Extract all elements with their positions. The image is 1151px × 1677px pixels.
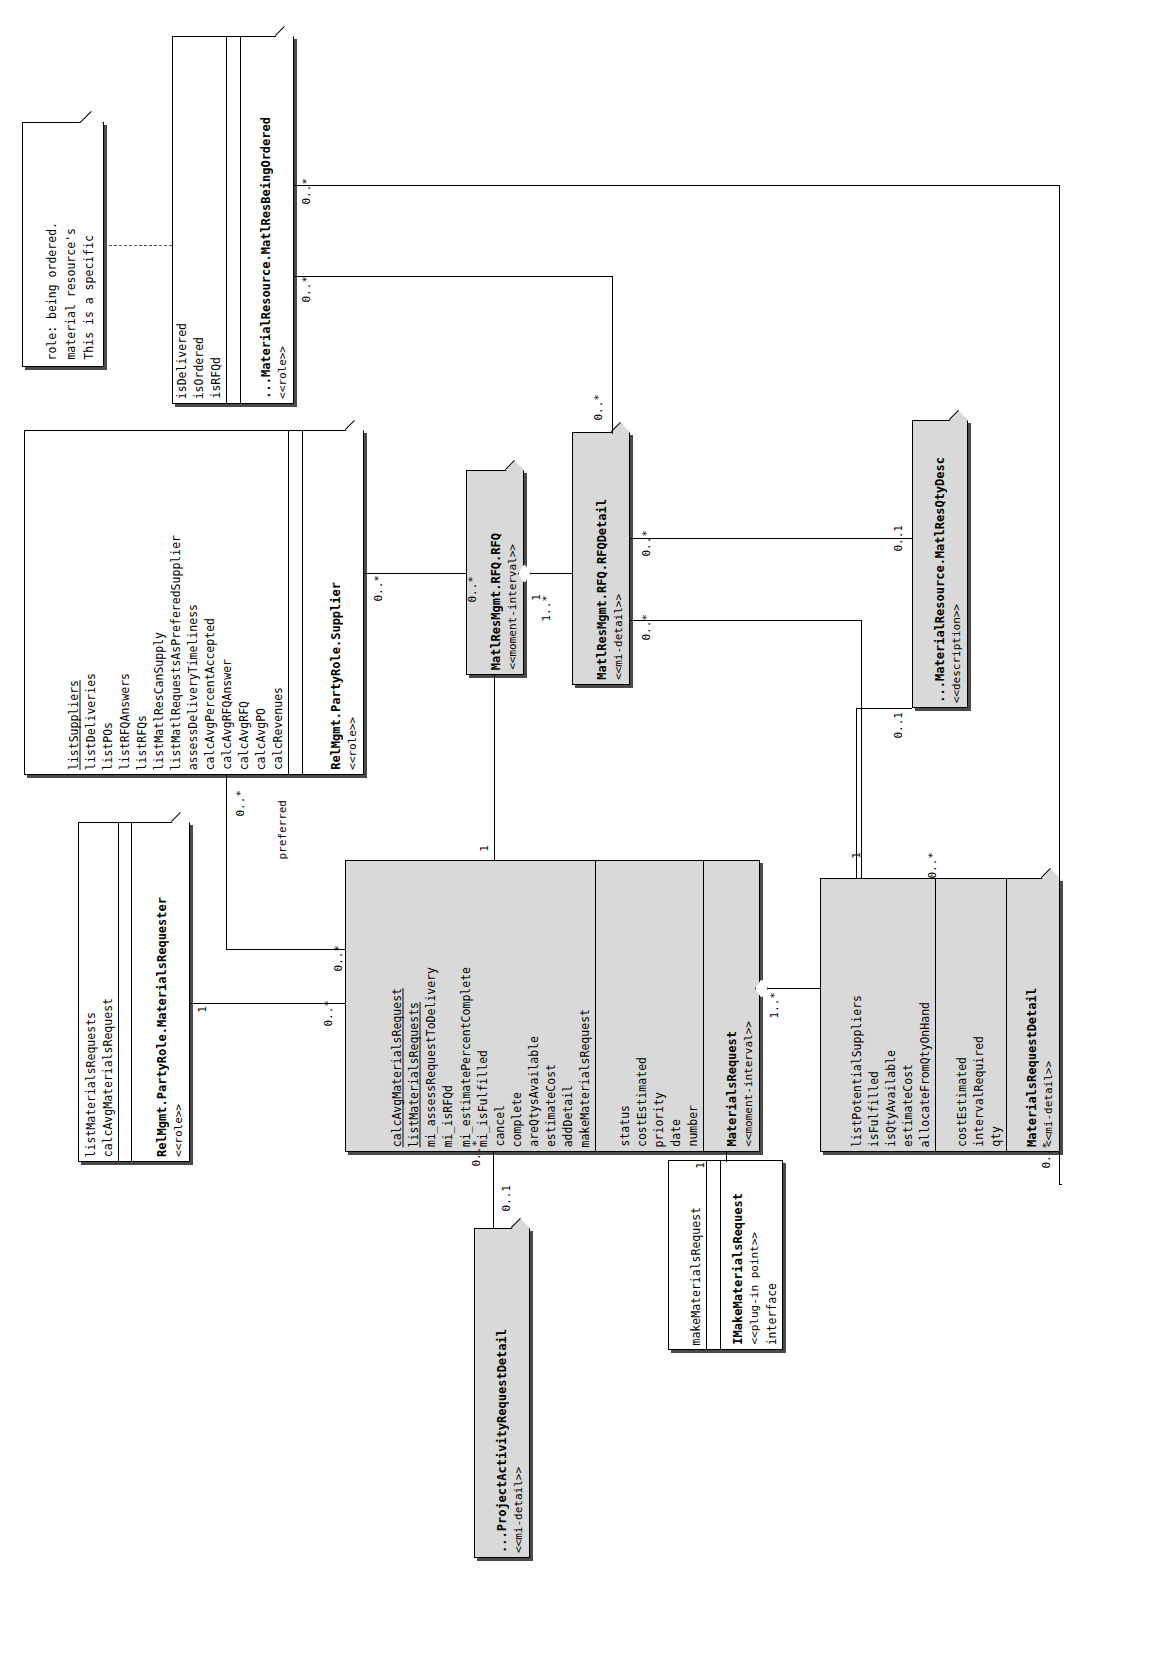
stereotype: <<role>> [274, 346, 291, 399]
multiplicity: 1 [694, 1162, 707, 1169]
class-operations: calcAvgMaterialsRequest listMaterialsReq… [79, 823, 119, 1161]
note-line-2: material resource's [62, 228, 81, 360]
class-operations: makeMaterialsRequest addDetail estimateC… [347, 861, 596, 1151]
class-matlresqtydesc[interactable]: <<description>> ...MaterialResource.Matl… [912, 420, 968, 708]
operation: calcAvgPO [252, 708, 269, 770]
interface-kind-label: interface [763, 1283, 780, 1345]
class-name: MatlResMgmt.RFQ.RFQDetail [593, 499, 611, 680]
note-line-1: This is a specific [80, 235, 99, 360]
multiplicity: 1..* [540, 595, 553, 622]
class-projectactivityrequestdetail[interactable]: <<mi-detail>> ...ProjectActivityRequestD… [474, 1228, 530, 1558]
multiplicity: 0..1 [892, 712, 905, 739]
stereotype: <<mi-detail>> [610, 594, 627, 680]
stereotype: <<mi-detail>> [510, 1467, 527, 1553]
operation: calcAvgPercentAccepted [201, 618, 218, 770]
attribute: isRFQd [207, 357, 224, 399]
class-header: <<moment-interval>> MaterialsRequest [704, 861, 759, 1151]
multiplicity: 0..* [926, 852, 939, 879]
multiplicity: 1..* [768, 992, 781, 1019]
operation: complete [508, 1092, 525, 1147]
multiplicity: 0..* [372, 575, 385, 602]
operation: calcAvgRFQ [235, 701, 252, 770]
class-attributes [707, 1161, 721, 1349]
assoc-line [630, 620, 862, 621]
class-header: <<description>> ...MaterialResource.Matl… [913, 421, 967, 707]
note-anchor-line [104, 245, 172, 246]
assoc-line [494, 675, 495, 861]
assoc-line [226, 949, 345, 950]
attribute: status [616, 1105, 633, 1147]
multiplicity: 0..* [640, 530, 653, 557]
operation: listDeliveries [82, 673, 99, 770]
attribute: isOrdered [190, 337, 207, 399]
class-matlresbeingordered[interactable]: <<role>> ...MaterialResource.MatlResBein… [172, 36, 294, 404]
class-rfqdetail[interactable]: <<mi-detail>> MatlResMgmt.RFQ.RFQDetail [572, 432, 630, 685]
class-header: <<role>> ...MaterialResource.MatlResBein… [241, 37, 293, 403]
class-materialsrequest[interactable]: <<moment-interval>> MaterialsRequest num… [345, 860, 760, 1152]
class-materialsrequestdetail[interactable]: <<mi-detail>> MaterialsRequestDetail qty… [820, 878, 1060, 1152]
assoc-line [1059, 185, 1060, 1185]
note-comment: This is a specific material resource's r… [22, 122, 104, 367]
operation: mi_isFulfilled [474, 1050, 491, 1147]
class-imakematerialsrequest[interactable]: interface <<plug-in point>> IMakeMateria… [668, 1160, 783, 1350]
assoc-line [726, 1152, 727, 1162]
assoc-line [294, 276, 613, 277]
class-header: <<role>> RelMgmt.PartyRole.MaterialsRequ… [132, 823, 189, 1161]
operation: calcAvgRFQAnswer [218, 659, 235, 770]
operation: areQtysAvailable [525, 1036, 542, 1147]
attribute: date [667, 1119, 684, 1147]
stereotype: <<description>> [948, 604, 965, 703]
class-header: <<role>> RelMgmt.PartyRole.Supplier [303, 431, 363, 774]
stereotype: <<moment-interval>> [740, 1021, 757, 1147]
operation: makeMaterialsRequest [687, 1207, 704, 1345]
class-name: ...ProjectActivityRequestDetail [493, 1329, 511, 1553]
operation: addDetail [559, 1085, 576, 1147]
attribute: isDelivered [173, 323, 190, 399]
operation: listMaterialsRequests [82, 1012, 99, 1157]
class-materialsrequester[interactable]: <<role>> RelMgmt.PartyRole.MaterialsRequ… [78, 822, 190, 1162]
assoc-line [856, 708, 912, 709]
assoc-line [760, 988, 820, 989]
class-header: <<mi-detail>> MaterialsRequestDetail [1007, 879, 1059, 1151]
class-name: ...MaterialResource.MatlResQtyDesc [931, 457, 949, 703]
multiplicity: 0..* [300, 276, 313, 303]
operation: listPotentialSuppliers [848, 995, 865, 1147]
operation-static: listSuppliers [65, 680, 82, 770]
operation: estimateCost [899, 1064, 916, 1147]
operation: listMatlResCanSupply [150, 632, 167, 770]
operation-static: listMaterialsRequests [405, 1002, 422, 1147]
class-name: ...MaterialResource.MatlResBeingOrdered [257, 117, 275, 399]
class-name: IMakeMaterialsRequest [729, 1193, 747, 1345]
assoc-line [630, 538, 912, 539]
attribute: number [684, 1105, 701, 1147]
multiplicity: 0..* [466, 576, 479, 603]
class-rfq[interactable]: <<moment-interval>> MatlResMgmt.RFQ.RFQ [466, 470, 524, 675]
assoc-line [612, 276, 613, 434]
multiplicity: 0..* [332, 945, 345, 972]
stereotype: <<mi-detail>> [1040, 1061, 1057, 1147]
multiplicity: 0..1 [500, 1185, 513, 1212]
multiplicity: 1 [478, 845, 491, 852]
multiplicity: 1 [196, 1006, 209, 1013]
operation: listRFQAnswers [116, 673, 133, 770]
class-operations: makeMaterialsRequest [669, 1161, 707, 1349]
multiplicity: 0..* [1040, 1142, 1053, 1169]
multiplicity: 0..* [592, 394, 605, 421]
operation: estimateCost [542, 1064, 559, 1147]
stereotype: <<moment-interval>> [504, 544, 521, 670]
attribute: intervalRequired [970, 1036, 987, 1147]
multiplicity: 0..* [470, 1140, 483, 1167]
operation: isQtyAvailable [882, 1050, 899, 1147]
class-name: RelMgmt.PartyRole.MaterialsRequester [153, 897, 171, 1157]
class-supplier[interactable]: <<role>> RelMgmt.PartyRole.Supplier calc… [24, 430, 364, 775]
multiplicity: 0..* [640, 614, 653, 641]
class-name: MaterialsRequest [723, 1031, 741, 1147]
class-header: <<mi-detail>> MatlResMgmt.RFQ.RFQDetail [573, 433, 629, 684]
operation: mi_assessRequestToDelivery [422, 967, 439, 1147]
assoc-line [861, 620, 862, 878]
stereotype: <<role>> [344, 717, 361, 770]
operation: allocateFromQtyOnHand [916, 1002, 933, 1147]
stereotype: <<plug-in point>> [746, 1232, 763, 1345]
multiplicity: 0..* [234, 790, 247, 817]
operation: cancel [491, 1105, 508, 1147]
